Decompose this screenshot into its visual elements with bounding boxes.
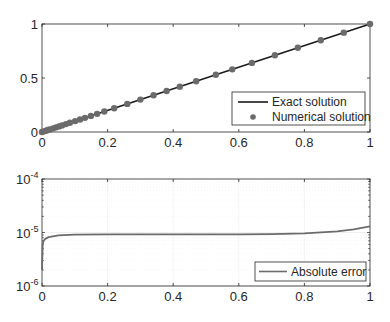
numerical-solution-marker <box>111 105 117 111</box>
numerical-solution-marker <box>163 88 169 94</box>
bottom-xtick-1: 0.2 <box>99 289 117 304</box>
legend-numerical-solution: Numerical solution <box>272 110 371 124</box>
numerical-solution-marker <box>177 83 183 89</box>
top-ytick-2: 1 <box>31 17 38 32</box>
numerical-solution-marker <box>318 37 324 43</box>
bottom-xtick-0: 0 <box>38 289 45 304</box>
bottom-ytick-1: 10-5 <box>16 224 38 241</box>
numerical-solution-marker <box>150 92 156 98</box>
top-ytick-0: 0 <box>31 125 38 140</box>
figure: Exact solution Numerical solution 0 0.2 … <box>0 0 390 322</box>
top-xtick-0: 0 <box>38 135 45 150</box>
legend-exact-solution: Exact solution <box>272 95 347 109</box>
numerical-solution-marker <box>229 66 235 72</box>
bottom-legend: Absolute error <box>255 262 366 281</box>
numerical-solution-marker <box>82 115 88 121</box>
bottom-y-tick-labels: 10-6 10-5 10-4 <box>16 170 38 294</box>
numerical-solution-marker <box>295 45 301 51</box>
numerical-solution-marker <box>272 52 278 58</box>
top-y-tick-labels: 0 0.5 1 <box>20 17 38 140</box>
numerical-solution-marker <box>88 113 94 119</box>
bottom-xtick-3: 0.6 <box>230 289 248 304</box>
legend-absolute-error: Absolute error <box>291 265 366 279</box>
top-x-tick-labels: 0 0.2 0.4 0.6 0.8 1 <box>38 135 373 150</box>
top-xtick-1: 0.2 <box>99 135 117 150</box>
top-axes: Exact solution Numerical solution 0 0.2 … <box>20 17 374 150</box>
top-ytick-1: 0.5 <box>20 71 38 86</box>
top-legend: Exact solution Numerical solution <box>232 92 371 125</box>
bottom-x-tick-labels: 0 0.2 0.4 0.6 0.8 1 <box>38 289 373 304</box>
bottom-xtick-5: 1 <box>366 289 373 304</box>
numerical-solution-marker <box>101 108 107 114</box>
numerical-solution-marker <box>124 101 130 107</box>
bottom-axes: Absolute error 0 0.2 0.4 0.6 0.8 1 10-6 … <box>16 170 374 304</box>
bottom-ytick-2: 10-4 <box>16 170 38 187</box>
numerical-solution-marker <box>341 29 347 35</box>
top-xtick-3: 0.6 <box>230 135 248 150</box>
bottom-xtick-2: 0.4 <box>164 289 182 304</box>
numerical-solution-marker <box>367 21 373 27</box>
numerical-solution-marker <box>137 96 143 102</box>
bottom-xtick-4: 0.8 <box>295 289 313 304</box>
numerical-solution-marker <box>249 60 255 66</box>
numerical-solution-marker <box>213 72 219 78</box>
top-xtick-4: 0.8 <box>295 135 313 150</box>
top-xtick-2: 0.4 <box>164 135 182 150</box>
numerical-solution-legend-marker-icon <box>250 114 256 120</box>
numerical-solution-marker <box>193 78 199 84</box>
numerical-solution-marker <box>94 111 100 117</box>
top-xtick-5: 1 <box>366 135 373 150</box>
bottom-ytick-0: 10-6 <box>16 277 38 294</box>
